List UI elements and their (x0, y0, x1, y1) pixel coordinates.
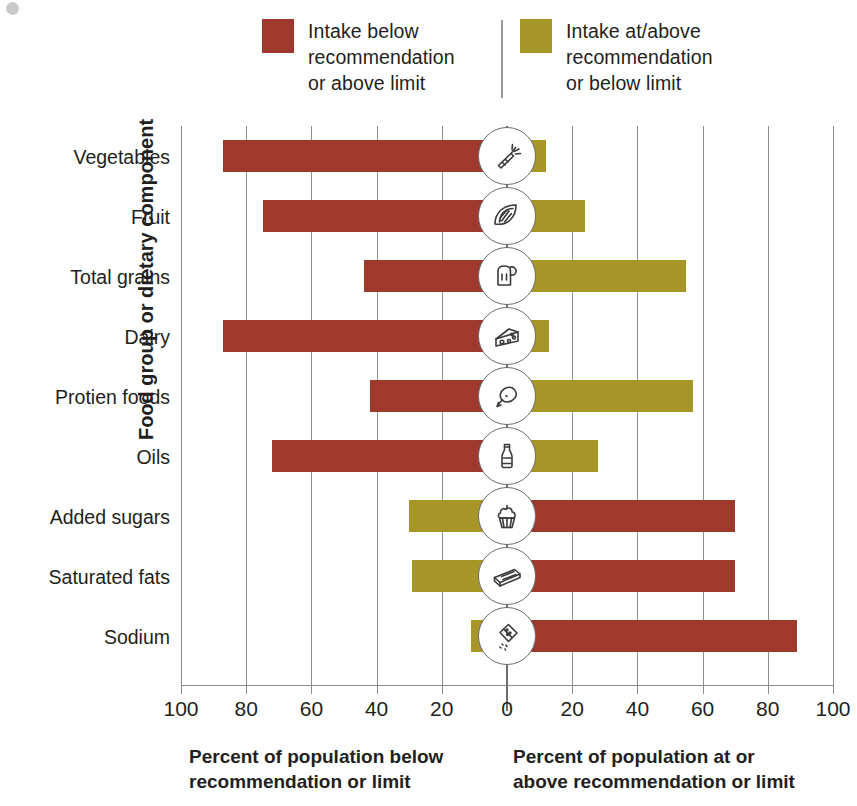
x-axis-tick-label: 40 (607, 697, 667, 721)
chart-row (181, 126, 833, 186)
bar-left[interactable] (223, 140, 507, 172)
carrot-icon (478, 127, 536, 185)
x-axis-tick (768, 686, 769, 694)
x-axis-tick (572, 686, 573, 694)
x-axis-tick-label: 0 (477, 697, 537, 721)
x-axis-tick-label: 20 (542, 697, 602, 721)
gridline (833, 126, 834, 686)
x-axis-title-left: Percent of population below recommendati… (189, 744, 489, 794)
x-axis-tick-label: 40 (347, 697, 407, 721)
legend-item-below: Intake below recommendation or above lim… (262, 18, 455, 96)
chart-row (181, 546, 833, 606)
x-axis-tick (377, 686, 378, 694)
plot-area (181, 126, 833, 686)
chart-row (181, 606, 833, 666)
x-axis-tick-label: 60 (673, 697, 733, 721)
x-axis-tick (246, 686, 247, 694)
oil-bottle-icon (478, 427, 536, 485)
chart-row (181, 246, 833, 306)
x-axis-tick-label: 100 (803, 697, 857, 721)
legend-swatch-red (262, 19, 294, 53)
legend-label-above: Intake at/above recommendation or below … (566, 18, 713, 96)
chart-row (181, 426, 833, 486)
bread-icon (478, 247, 536, 305)
x-axis-tick-label: 60 (281, 697, 341, 721)
x-axis-tick-labels: 10080604020020406080100 (181, 697, 833, 725)
cupcake-icon (478, 487, 536, 545)
bar-left[interactable] (272, 440, 507, 472)
x-axis-tick (637, 686, 638, 694)
chart-legend: Intake below recommendation or above lim… (262, 18, 732, 118)
chart-row (181, 486, 833, 546)
y-axis-category-label: Protien foods (0, 386, 170, 408)
legend-divider (501, 20, 503, 98)
x-axis-tick (181, 686, 182, 694)
x-axis-tick (442, 686, 443, 694)
citrus-icon (478, 187, 536, 245)
y-axis-category-label: Fruit (0, 206, 170, 228)
y-axis-category-label: Vegetables (0, 146, 170, 168)
x-axis-tick-label: 100 (151, 697, 211, 721)
x-axis-tick-label: 80 (738, 697, 798, 721)
y-axis-category-label: Dairy (0, 326, 170, 348)
x-axis-tick-label: 80 (216, 697, 276, 721)
x-axis-title-right: Percent of population at or above recomm… (513, 744, 843, 794)
y-axis-category-label: Total grains (0, 266, 170, 288)
y-axis-category-label: Saturated fats (0, 566, 170, 588)
chart-row (181, 366, 833, 426)
y-axis-category-label: Added sugars (0, 506, 170, 528)
legend-label-below: Intake below recommendation or above lim… (308, 18, 455, 96)
x-axis-tick (703, 686, 704, 694)
bar-left[interactable] (263, 200, 508, 232)
x-axis-titles: Percent of population below recommendati… (0, 744, 857, 804)
chart-row (181, 186, 833, 246)
bar-right[interactable] (507, 560, 735, 592)
legend-swatch-gold (520, 19, 552, 53)
chart-row (181, 306, 833, 366)
x-axis-tick (311, 686, 312, 694)
x-axis-tick-label: 20 (412, 697, 472, 721)
salt-shaker-icon (478, 607, 536, 665)
bar-right[interactable] (507, 620, 797, 652)
bar-left[interactable] (223, 320, 507, 352)
y-axis-category-label: Sodium (0, 626, 170, 648)
y-axis-category-label: Oils (0, 446, 170, 468)
bar-right[interactable] (507, 500, 735, 532)
legend-item-above: Intake at/above recommendation or below … (520, 18, 713, 96)
y-axis-category-labels: VegetablesFruitTotal grainsDairyProtien … (0, 126, 170, 686)
chart-page: Intake below recommendation or above lim… (0, 0, 857, 806)
drumstick-icon (478, 367, 536, 425)
butter-icon (478, 547, 536, 605)
cheese-icon (478, 307, 536, 365)
corner-mark (6, 2, 19, 15)
x-axis-tick (833, 686, 834, 694)
